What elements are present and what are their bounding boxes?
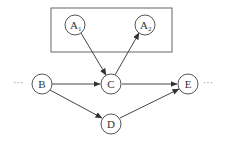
node-a2-label: A (140, 19, 148, 31)
ellipsis-right: ··· (203, 77, 213, 88)
edge-c-to-a2 (115, 33, 139, 75)
causal-graph-diagram: A 1 A 2 B C D E ··· ··· (0, 0, 230, 142)
node-d: D (101, 114, 121, 134)
node-a2: A 2 (135, 15, 155, 35)
node-e: E (178, 74, 198, 94)
node-a2-subscript: 2 (148, 25, 152, 33)
edge-d-to-e (120, 89, 179, 118)
node-d-label: D (107, 118, 115, 130)
node-e-label: E (185, 78, 192, 90)
node-c-label: C (107, 78, 114, 90)
edge-b-to-d (50, 90, 102, 118)
node-b-label: B (38, 78, 45, 90)
node-a1-subscript: 1 (78, 25, 82, 33)
node-a1: A 1 (65, 15, 85, 35)
node-a1-label: A (70, 19, 78, 31)
node-b: B (32, 74, 52, 94)
ellipsis-left: ··· (13, 77, 23, 88)
edge-a1-to-c (81, 33, 106, 75)
node-c: C (101, 74, 121, 94)
